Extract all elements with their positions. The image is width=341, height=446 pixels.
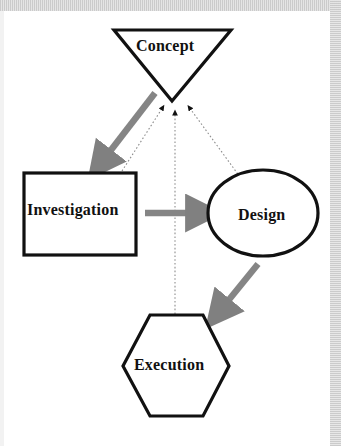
diagram-page: Concept Investigation Design Execution (0, 0, 341, 446)
flow-arrow-design-to-execution (219, 264, 258, 312)
node-label-execution: Execution (134, 356, 204, 374)
node-label-design: Design (238, 206, 285, 224)
diagram-canvas (0, 0, 341, 446)
feedback-arrow-investigation-to-concept (122, 107, 163, 171)
node-label-investigation: Investigation (27, 201, 119, 219)
node-label-concept: Concept (136, 37, 194, 55)
feedback-arrow-design-to-concept (189, 107, 240, 177)
flow-arrow-concept-to-investigation (101, 93, 155, 163)
